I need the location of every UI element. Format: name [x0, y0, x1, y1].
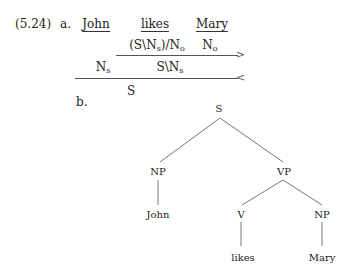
- tree-node-vp: VP: [277, 165, 291, 179]
- tree-node-s: S: [216, 102, 223, 116]
- tree-leaf-likes: likes: [231, 251, 255, 265]
- tree-leaf-mary: Mary: [309, 251, 336, 265]
- tree-node-np-object: NP: [314, 208, 329, 222]
- tree-node-v: V: [237, 208, 244, 222]
- tree-node-np-subject: NP: [150, 165, 165, 179]
- tree-edges: [0, 0, 356, 276]
- tree-leaf-john: John: [147, 208, 170, 222]
